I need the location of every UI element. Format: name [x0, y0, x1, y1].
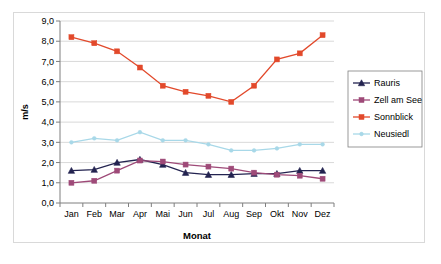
data-point — [252, 149, 256, 153]
data-point — [115, 49, 120, 54]
series-line — [71, 160, 322, 175]
x-tick-label: Feb — [86, 209, 102, 219]
x-tick-label: Jun — [178, 209, 193, 219]
data-point — [69, 35, 74, 40]
series-rauris — [68, 156, 326, 177]
x-axis-tick-labels: JanFebMarAprMaiJunJulAugSepOktNovDez — [64, 209, 331, 219]
y-tick-label: 5,0 — [41, 97, 54, 107]
x-axis-title: Monat — [183, 230, 212, 241]
data-point — [183, 89, 188, 94]
legend-label: Zell am See — [374, 95, 422, 105]
x-tick-label: Jan — [64, 209, 79, 219]
data-point — [92, 136, 96, 140]
data-point — [229, 99, 234, 104]
series-neusiedl — [70, 130, 325, 152]
x-tick-label: Mar — [109, 209, 125, 219]
y-axis-title: m/s — [20, 104, 30, 120]
data-point — [252, 170, 257, 175]
legend-marker-icon — [360, 132, 364, 136]
data-point — [297, 173, 302, 178]
y-tick-label: 9,0 — [41, 16, 54, 26]
data-point — [184, 138, 188, 142]
series-line — [71, 132, 322, 150]
data-point — [252, 83, 257, 88]
line-chart: 0,01,02,03,04,05,06,07,08,09,0 JanFebMar… — [14, 13, 424, 242]
y-tick-label: 8,0 — [41, 36, 54, 46]
data-point — [138, 130, 142, 134]
y-tick-label: 6,0 — [41, 77, 54, 87]
data-point — [70, 140, 74, 144]
data-point — [206, 93, 211, 98]
x-tick-label: Dez — [315, 209, 332, 219]
chart-legend: RaurisZell am SeeSonnblickNeusiedl — [348, 71, 422, 147]
data-point — [321, 142, 325, 146]
x-tick-label: Jul — [203, 209, 215, 219]
series-line — [71, 35, 322, 102]
data-point — [207, 142, 211, 146]
x-tick-label: Mai — [155, 209, 170, 219]
y-tick-label: 4,0 — [41, 117, 54, 127]
data-point — [92, 41, 97, 46]
y-tick-label: 3,0 — [41, 138, 54, 148]
data-point — [137, 158, 142, 163]
y-tick-label: 1,0 — [41, 178, 54, 188]
data-point — [320, 33, 325, 38]
series-zell-am-see — [69, 158, 325, 185]
legend-label: Neusiedl — [374, 129, 409, 139]
chart-frame: 0,01,02,03,04,05,06,07,08,09,0 JanFebMar… — [13, 12, 425, 243]
legend-label: Sonnblick — [374, 112, 414, 122]
series-sonnblick — [69, 33, 325, 105]
legend-label: Rauris — [374, 78, 401, 88]
data-point — [115, 168, 120, 173]
data-point — [274, 57, 279, 62]
y-axis-tick-labels: 0,01,02,03,04,05,06,07,08,09,0 — [41, 16, 54, 208]
data-point — [229, 149, 233, 153]
data-point — [206, 164, 211, 169]
data-point — [137, 65, 142, 70]
y-tick-label: 0,0 — [41, 198, 54, 208]
x-tick-label: Aug — [223, 209, 239, 219]
legend-marker-icon — [359, 98, 364, 103]
data-point — [275, 147, 279, 151]
data-point — [229, 166, 234, 171]
series-line — [71, 161, 322, 183]
data-point — [183, 162, 188, 167]
data-point — [297, 51, 302, 56]
data-point — [115, 138, 119, 142]
x-tick-label: Nov — [292, 209, 309, 219]
data-point — [160, 159, 165, 164]
y-tick-label: 7,0 — [41, 57, 54, 67]
data-point — [298, 142, 302, 146]
x-tick-label: Sep — [246, 209, 262, 219]
data-point — [320, 176, 325, 181]
data-point — [160, 83, 165, 88]
data-point — [92, 178, 97, 183]
y-tick-label: 2,0 — [41, 158, 54, 168]
data-point — [69, 180, 74, 185]
data-point — [161, 138, 165, 142]
legend-marker-icon — [359, 115, 364, 120]
data-point — [274, 172, 279, 177]
x-tick-label: Apr — [133, 209, 147, 219]
x-tick-label: Okt — [270, 209, 285, 219]
